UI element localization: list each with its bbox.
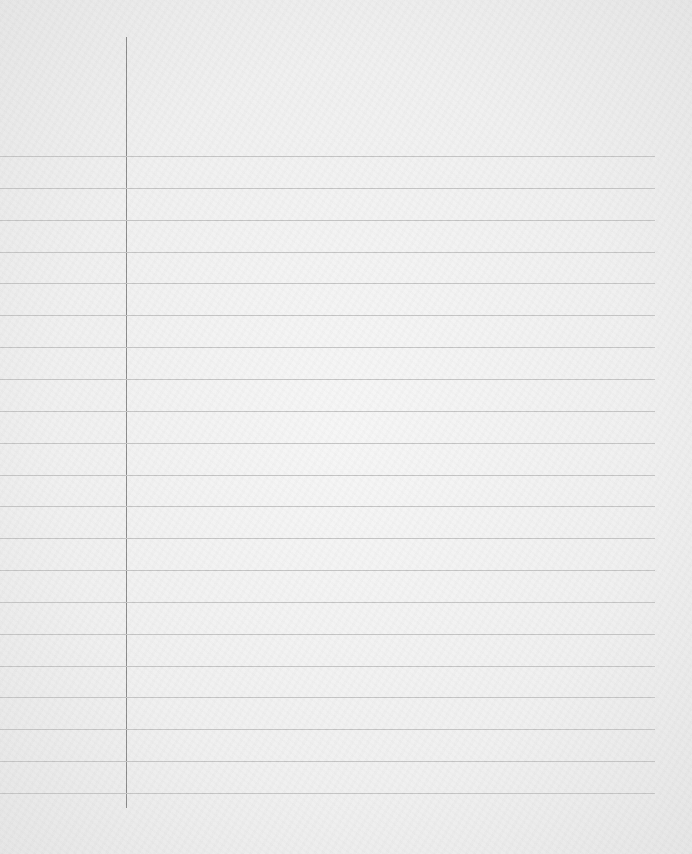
ruled-line	[0, 252, 655, 253]
ruled-line	[0, 506, 655, 507]
ruled-line	[0, 443, 655, 444]
ruled-line	[0, 188, 655, 189]
ruled-line	[0, 475, 655, 476]
ruled-line	[0, 729, 655, 730]
ruled-line	[0, 156, 655, 157]
ruled-line	[0, 761, 655, 762]
ruled-line	[0, 697, 655, 698]
ruled-line	[0, 666, 655, 667]
ruled-line	[0, 793, 655, 794]
ruled-line	[0, 602, 655, 603]
margin-line	[126, 37, 127, 808]
ruled-line	[0, 220, 655, 221]
ruled-line	[0, 347, 655, 348]
ruled-line	[0, 315, 655, 316]
ruled-line	[0, 379, 655, 380]
ruled-line	[0, 538, 655, 539]
ruled-line	[0, 411, 655, 412]
ruled-line	[0, 634, 655, 635]
ruled-line	[0, 570, 655, 571]
lined-paper	[0, 0, 692, 854]
ruled-line	[0, 283, 655, 284]
